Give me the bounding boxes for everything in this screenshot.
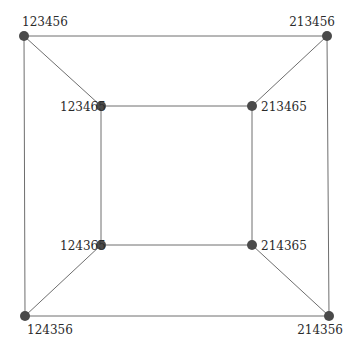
node-213465	[247, 101, 257, 111]
edge-213456-214356	[327, 36, 329, 316]
node-label: 123465	[60, 100, 106, 114]
edge-123456-124356	[24, 36, 25, 316]
node-214356	[324, 311, 334, 321]
label-layer: 1234562134561234652134651243652143651243…	[22, 15, 343, 337]
edge-layer	[24, 36, 329, 316]
node-124356	[20, 311, 30, 321]
edge-213456-213465	[252, 36, 327, 106]
node-label: 214365	[261, 239, 307, 253]
edge-214356-214365	[252, 245, 329, 316]
node-label: 124356	[27, 323, 73, 337]
permutation-graph-diagram: 1234562134561234652134651243652143651243…	[0, 0, 358, 352]
node-label: 124365	[60, 239, 106, 253]
node-label: 213465	[261, 100, 307, 114]
node-label: 213456	[289, 15, 335, 29]
edge-123456-123465	[24, 36, 101, 106]
node-label: 123456	[22, 15, 68, 29]
node-213456	[322, 31, 332, 41]
node-123456	[19, 31, 29, 41]
node-214365	[247, 240, 257, 250]
edge-124356-124365	[25, 245, 101, 316]
node-label: 214356	[297, 323, 343, 337]
